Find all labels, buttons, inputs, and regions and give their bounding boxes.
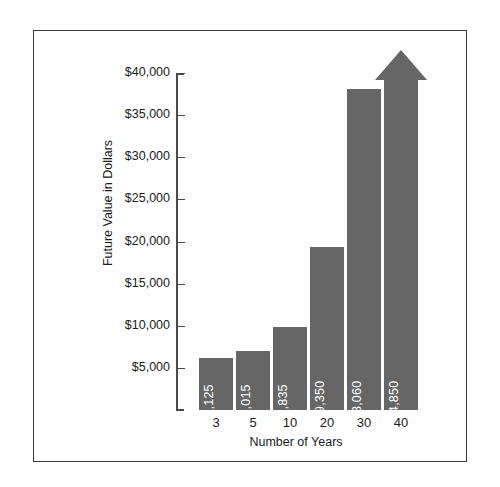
y-axis-tick-label-slot: $40,000: [90, 65, 170, 81]
y-axis-tick-label: $5,000: [92, 360, 170, 374]
y-axis-tick: [178, 199, 185, 200]
y-axis-tick: [178, 115, 185, 116]
chart-figure: $5,000$10,000$15,000$20,000$25,000$30,00…: [0, 0, 500, 487]
bar: $74,850: [384, 78, 418, 410]
bar: $6,125: [199, 358, 233, 410]
plot-area: $5,000$10,000$15,000$20,000$25,000$30,00…: [0, 0, 500, 487]
x-axis-tick-label: 10: [273, 415, 307, 430]
y-axis-tick-label: $40,000: [92, 65, 170, 79]
y-axis-tick-label-slot: $10,000: [90, 318, 170, 334]
y-axis-title: Future Value in Dollars: [101, 93, 115, 313]
y-axis-tick: [178, 73, 185, 74]
y-axis-tick-label: $10,000: [92, 318, 170, 332]
y-axis-tick-label-slot: $5,000: [90, 360, 170, 376]
bar: $38,060: [347, 89, 381, 410]
x-axis-tick-label: 20: [310, 415, 344, 430]
x-axis-tick-label: 3: [199, 415, 233, 430]
overflow-arrow-head-icon: [375, 50, 427, 80]
bar: $7,015: [236, 351, 270, 410]
y-axis-tick: [178, 368, 185, 369]
y-axis-tick: [178, 242, 185, 243]
x-axis-tick-label: 40: [384, 415, 418, 430]
x-axis-title: Number of Years: [176, 435, 416, 449]
y-axis-tick: [178, 284, 185, 285]
x-axis-tick-label: 30: [347, 415, 381, 430]
y-axis-tick: [178, 157, 185, 158]
x-axis-tick-label: 5: [236, 415, 270, 430]
bar: $19,350: [310, 247, 344, 410]
y-axis-bottom-cap: [176, 409, 184, 411]
y-axis-tick: [178, 326, 185, 327]
bar: $9,835: [273, 327, 307, 410]
